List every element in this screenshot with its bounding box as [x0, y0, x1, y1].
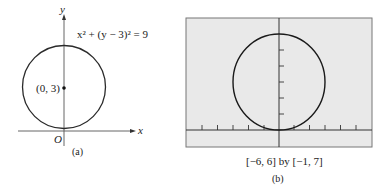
- window-label: [−6, 6] by [−1, 7]: [246, 156, 323, 167]
- x-axis-label: x: [138, 125, 143, 136]
- center-point: [62, 86, 66, 90]
- figure-canvas: [0, 0, 392, 188]
- y-axis-label: y: [60, 4, 65, 15]
- origin-label: O: [54, 134, 62, 145]
- caption-a: (a): [72, 147, 83, 157]
- panel-b-graph: [186, 18, 372, 147]
- center-label: (0, 3): [36, 83, 60, 94]
- equation-label: x² + (y − 3)² = 9: [77, 29, 148, 40]
- caption-b: (b): [272, 174, 284, 184]
- x-axis-arrow-icon: [130, 129, 136, 133]
